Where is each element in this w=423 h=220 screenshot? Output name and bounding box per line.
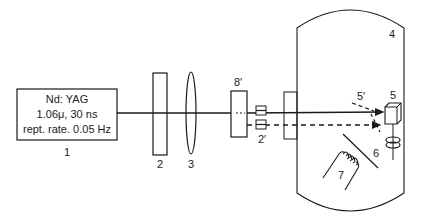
label-2: 2 [157, 158, 163, 170]
label-8prime: 8′ [234, 76, 242, 88]
laser-wavelength: 1.06μ, 30 ns [37, 108, 98, 120]
label-1: 1 [64, 146, 70, 158]
laser-rep-rate: rept. rate. 0.05 Hz [23, 123, 111, 135]
chamber-window [284, 92, 297, 139]
target-5 [385, 103, 401, 124]
laser-box: Nd: YAG 1.06μ, 30 ns rept. rate. 0.05 Hz [17, 89, 117, 140]
label-5: 5 [390, 89, 396, 101]
beam-to-target [247, 112, 383, 113]
label-3: 3 [188, 158, 194, 170]
label-5prime: 5′ [357, 90, 365, 102]
reflection-5prime [352, 103, 374, 111]
element-8prime [231, 91, 247, 137]
label-7: 7 [338, 169, 344, 181]
plate-2 [153, 73, 167, 155]
label-6: 6 [373, 147, 379, 159]
label-2prime: 2′ [258, 133, 266, 145]
laser-name: Nd: YAG [46, 93, 88, 105]
experimental-setup-diagram: Nd: YAG 1.06μ, 30 ns rept. rate. 0.05 Hz… [0, 0, 423, 220]
label-4: 4 [389, 28, 395, 40]
